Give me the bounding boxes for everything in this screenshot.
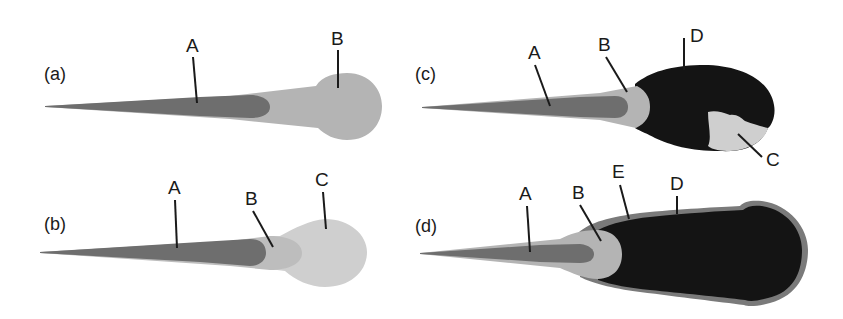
label-D: D bbox=[670, 173, 684, 194]
panel-label-a: (a) bbox=[44, 64, 66, 84]
leader-line-d-E bbox=[620, 185, 629, 219]
panel-label-c: (c) bbox=[415, 64, 436, 84]
leader-line-b-A bbox=[175, 200, 177, 248]
four-panel-diagram: (a) A B (b) A B C (c) A bbox=[0, 0, 843, 319]
panel-a: (a) A B bbox=[44, 28, 382, 140]
label-D: D bbox=[690, 25, 704, 46]
label-A: A bbox=[186, 35, 199, 56]
panel-c: (c) A B D C bbox=[415, 25, 780, 170]
label-A: A bbox=[528, 42, 541, 63]
panel-b: (b) A B C bbox=[40, 169, 367, 287]
label-A: A bbox=[168, 177, 181, 198]
panel-d: (d) A B E D bbox=[415, 161, 808, 306]
panel-label-d: (d) bbox=[415, 216, 437, 236]
leader-line-c-B bbox=[606, 57, 627, 92]
label-B: B bbox=[572, 182, 585, 203]
label-B: B bbox=[245, 188, 258, 209]
label-A: A bbox=[519, 183, 532, 204]
panel-label-b: (b) bbox=[44, 214, 66, 234]
region-a bbox=[45, 95, 270, 118]
label-C: C bbox=[766, 149, 780, 170]
label-B: B bbox=[598, 34, 611, 55]
region-a bbox=[40, 239, 266, 266]
label-B: B bbox=[331, 28, 344, 49]
label-E: E bbox=[612, 161, 625, 182]
label-C: C bbox=[315, 169, 329, 190]
leader-line-a-A bbox=[193, 57, 197, 103]
